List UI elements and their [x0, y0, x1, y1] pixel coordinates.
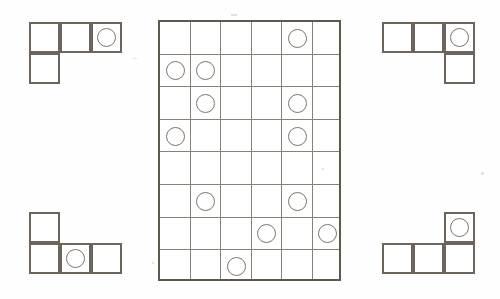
grid-row-line: [160, 151, 339, 152]
grid-circle[interactable]: [318, 224, 337, 243]
grid-circle[interactable]: [227, 257, 246, 276]
grid-row-line: [160, 86, 339, 87]
grid-circle[interactable]: [196, 94, 215, 113]
grid-column-line: [281, 22, 282, 279]
piece-top-right[interactable]: [382, 22, 475, 84]
grid-circle[interactable]: [288, 94, 307, 113]
piece-cell[interactable]: [444, 243, 475, 274]
piece-cell[interactable]: [382, 22, 413, 53]
grid-row-line: [160, 54, 339, 55]
piece-bottom-left[interactable]: [29, 212, 122, 274]
piece-top-left[interactable]: [29, 22, 122, 84]
piece-circle[interactable]: [450, 218, 469, 237]
grid-circle[interactable]: [196, 192, 215, 211]
piece-bottom-right[interactable]: [382, 212, 475, 274]
grid-circle[interactable]: [288, 192, 307, 211]
grid-circle[interactable]: [288, 127, 307, 146]
grid-row-line: [160, 249, 339, 250]
paper-speck: [481, 172, 484, 175]
grid-column-line: [312, 22, 313, 279]
paper-speck: [133, 58, 137, 59]
grid-row-line: [160, 184, 339, 185]
piece-circle[interactable]: [66, 249, 85, 268]
main-grid[interactable]: [158, 20, 341, 281]
grid-circle[interactable]: [196, 61, 215, 80]
piece-cell[interactable]: [91, 243, 122, 274]
grid-circle[interactable]: [166, 127, 185, 146]
grid-circle[interactable]: [257, 224, 276, 243]
grid-row-line: [160, 119, 339, 120]
paper-speck: [322, 168, 324, 170]
grid-row-line: [160, 217, 339, 218]
piece-circle[interactable]: [97, 28, 116, 47]
piece-circle[interactable]: [450, 28, 469, 47]
grid-circle[interactable]: [166, 61, 185, 80]
piece-cell[interactable]: [60, 22, 91, 53]
grid-column-line: [220, 22, 221, 279]
grid-column-line: [190, 22, 191, 279]
grid-circle[interactable]: [288, 29, 307, 48]
grid-column-line: [251, 22, 252, 279]
piece-cell[interactable]: [29, 243, 60, 274]
piece-cell[interactable]: [413, 22, 444, 53]
paper-speck: [231, 14, 237, 16]
piece-cell[interactable]: [29, 212, 60, 243]
piece-cell[interactable]: [29, 22, 60, 53]
piece-cell[interactable]: [413, 243, 444, 274]
piece-cell[interactable]: [382, 243, 413, 274]
piece-cell[interactable]: [444, 53, 475, 84]
paper-speck: [152, 262, 154, 264]
piece-cell[interactable]: [29, 53, 60, 84]
